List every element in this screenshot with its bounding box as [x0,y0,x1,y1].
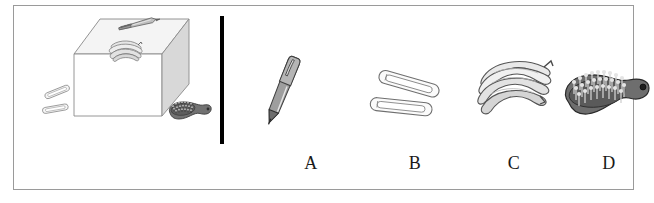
scene-paper-clips-icon [42,84,70,114]
handle-hole [640,84,646,90]
choice-option-b[interactable]: B [363,11,467,191]
choice-option-d[interactable]: D [557,11,654,191]
choice-c-label: C [462,153,566,174]
scene-svg [14,6,214,191]
reference-scene [14,6,214,191]
choice-b-label: B [363,153,467,174]
choices-row: A [229,11,647,191]
choice-b-art [363,49,467,145]
choice-c-art [462,49,566,145]
hairbrush-icon [557,49,654,145]
figure-frame: A [13,5,634,190]
bananas-icon [462,49,566,145]
banana-stem [544,61,553,67]
box-front-face [74,54,162,116]
pen-icon [259,49,363,145]
choice-a-art [259,49,363,145]
choice-d-label: D [557,153,654,174]
choice-d-art [557,49,654,145]
paper-clips-icon [363,49,467,145]
rectangular-box [74,19,189,116]
vertical-black-divider-bar [220,16,224,144]
choice-a-label: A [259,153,363,174]
choice-option-c[interactable]: C [462,11,566,191]
choice-option-a[interactable]: A [259,11,363,191]
scene-hairbrush-icon [169,101,211,119]
